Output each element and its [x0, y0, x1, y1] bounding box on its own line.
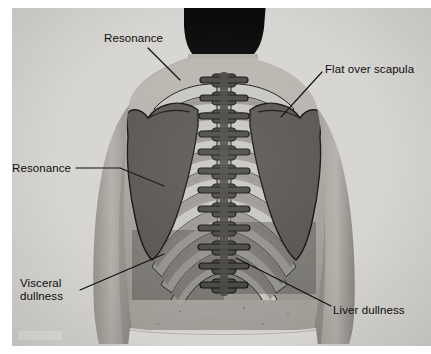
label-visceral-dullness-line1: Visceral	[20, 277, 62, 289]
plate-tag	[18, 331, 62, 340]
label-visceral-dullness: Visceraldullness	[20, 277, 63, 303]
label-resonance-upper: Resonance	[104, 32, 163, 45]
label-flat-over-scapula: Flat over scapula	[325, 63, 414, 76]
label-liver-dullness: Liver dullness	[333, 304, 405, 317]
anatomy-illustration	[12, 8, 431, 346]
photo-plate	[12, 8, 431, 346]
label-resonance-lower: Resonance	[12, 162, 71, 175]
label-visceral-dullness-line2: dullness	[20, 290, 63, 302]
figure-root: Resonance Flat over scapula Resonance Vi…	[0, 0, 431, 354]
